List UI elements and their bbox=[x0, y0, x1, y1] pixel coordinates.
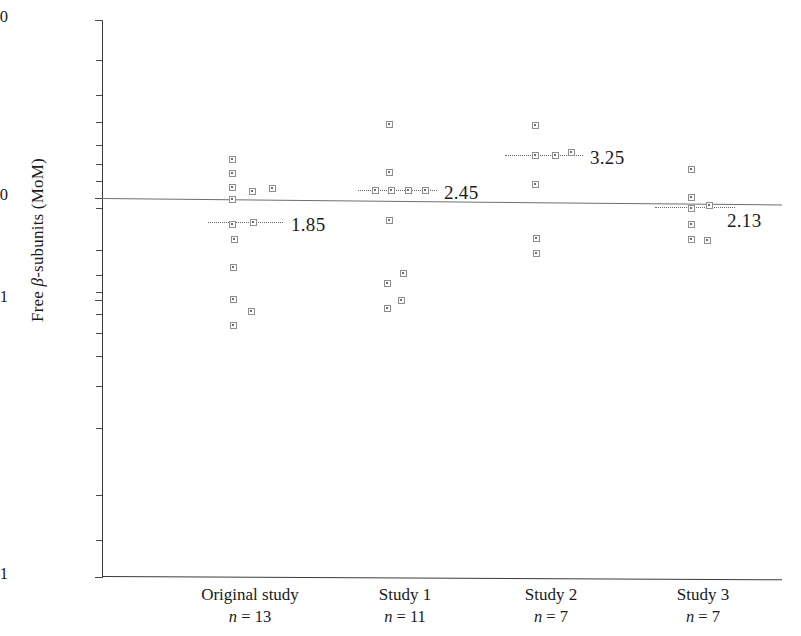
data-point-marker bbox=[230, 322, 237, 329]
y-axis-minor-tick bbox=[96, 122, 102, 123]
data-point-marker bbox=[532, 152, 539, 159]
data-point-marker bbox=[229, 156, 236, 163]
x-category-name: Study 3 bbox=[613, 584, 793, 606]
data-point-marker bbox=[249, 188, 256, 195]
data-point-marker bbox=[229, 196, 236, 203]
reference-line-2-20 bbox=[102, 198, 782, 206]
y-axis-major-tick bbox=[95, 20, 103, 21]
x-axis-line bbox=[102, 576, 782, 580]
data-point-marker bbox=[229, 221, 236, 228]
data-point-marker bbox=[706, 202, 713, 209]
y-axis-tick-label: 0.1 bbox=[0, 566, 8, 583]
y-axis-title-post: -subunits (MoM) bbox=[28, 158, 47, 278]
data-point-marker bbox=[229, 170, 236, 177]
y-axis-minor-tick bbox=[96, 333, 102, 334]
y-axis-title-pre: Free bbox=[28, 286, 47, 321]
y-axis-tick-label: 10 bbox=[0, 9, 8, 26]
median-value-label: 2.13 bbox=[727, 210, 761, 232]
data-point-marker bbox=[688, 236, 695, 243]
data-point-marker bbox=[704, 237, 711, 244]
chart-canvas: Free β-subunits (MoM) 1.852.453.252.13 1… bbox=[0, 0, 801, 636]
sample-size-symbol: n bbox=[384, 607, 392, 626]
y-axis-minor-tick bbox=[96, 495, 102, 496]
data-point-marker bbox=[386, 217, 393, 224]
y-axis-minor-tick bbox=[96, 314, 102, 315]
y-axis-tick-label: 1 bbox=[0, 289, 8, 306]
y-axis-minor-tick bbox=[96, 60, 102, 61]
sample-size-symbol: n bbox=[229, 607, 237, 626]
plot-area: 1.852.453.252.13 bbox=[102, 20, 782, 577]
data-point-marker bbox=[533, 250, 540, 257]
sample-size-symbol: n bbox=[534, 607, 542, 626]
y-axis-minor-tick bbox=[96, 540, 102, 541]
data-point-marker bbox=[269, 185, 276, 192]
data-point-marker bbox=[384, 280, 391, 287]
median-line bbox=[208, 222, 283, 223]
y-axis-minor-tick bbox=[96, 292, 102, 293]
data-point-marker bbox=[229, 184, 236, 191]
y-axis-minor-tick bbox=[96, 145, 102, 146]
y-axis-major-tick bbox=[95, 300, 103, 301]
y-axis-minor-tick bbox=[96, 208, 102, 209]
y-axis-minor-tick bbox=[96, 428, 102, 429]
data-point-marker bbox=[422, 187, 429, 194]
x-category-count: n = 7 bbox=[613, 606, 793, 627]
data-point-marker bbox=[400, 270, 407, 277]
y-axis-minor-tick bbox=[96, 356, 102, 357]
data-point-marker bbox=[231, 236, 238, 243]
data-point-marker bbox=[552, 152, 559, 159]
x-category-count: n = 13 bbox=[160, 606, 340, 627]
data-point-marker bbox=[688, 194, 695, 201]
data-point-marker bbox=[230, 264, 237, 271]
data-point-marker bbox=[388, 187, 395, 194]
data-point-marker bbox=[248, 308, 255, 315]
sample-size-symbol: n bbox=[686, 607, 694, 626]
y-axis-title-beta: β bbox=[28, 278, 47, 287]
data-point-marker bbox=[384, 305, 391, 312]
data-point-marker bbox=[533, 235, 540, 242]
y-axis-tick-label: 2.20 bbox=[0, 187, 8, 204]
y-axis-minor-tick bbox=[96, 95, 102, 96]
data-point-marker bbox=[386, 169, 393, 176]
data-point-marker bbox=[372, 187, 379, 194]
y-axis-minor-tick bbox=[96, 181, 102, 182]
x-category-name: Original study bbox=[160, 584, 340, 606]
data-point-marker bbox=[386, 121, 393, 128]
y-axis-title: Free β-subunits (MoM) bbox=[28, 90, 48, 390]
data-point-marker bbox=[532, 122, 539, 129]
median-value-label: 2.45 bbox=[444, 182, 478, 204]
data-point-marker bbox=[688, 166, 695, 173]
data-point-marker bbox=[405, 187, 412, 194]
y-axis-minor-tick bbox=[96, 164, 102, 165]
y-axis-minor-tick bbox=[96, 275, 102, 276]
data-point-marker bbox=[688, 221, 695, 228]
data-point-marker bbox=[250, 219, 257, 226]
y-axis-minor-tick bbox=[96, 386, 102, 387]
median-value-label: 1.85 bbox=[291, 214, 325, 236]
median-line bbox=[655, 207, 735, 208]
y-axis-major-tick bbox=[95, 577, 103, 578]
y-axis-line bbox=[102, 20, 103, 577]
data-point-marker bbox=[398, 297, 405, 304]
y-axis-minor-tick bbox=[96, 250, 102, 251]
data-point-marker bbox=[230, 296, 237, 303]
x-axis-category-label: Study 3n = 7 bbox=[613, 584, 793, 627]
data-point-marker bbox=[568, 149, 575, 156]
data-point-marker bbox=[688, 205, 695, 212]
data-point-marker bbox=[532, 181, 539, 188]
x-axis-category-label: Original studyn = 13 bbox=[160, 584, 340, 627]
median-value-label: 3.25 bbox=[590, 147, 624, 169]
